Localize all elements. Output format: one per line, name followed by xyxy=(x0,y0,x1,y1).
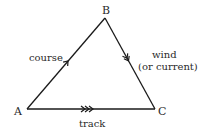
track-label: track xyxy=(79,118,106,129)
vertex-label-c: C xyxy=(158,105,166,118)
edge-course xyxy=(27,18,105,109)
vector-triangle-diagram: A B C course wind (or current) track xyxy=(0,0,202,132)
wind-arrow-icon xyxy=(122,53,131,62)
current-label: (or current) xyxy=(138,61,198,72)
vertex-label-b: B xyxy=(102,4,110,17)
course-label: course xyxy=(29,52,63,63)
wind-label: wind xyxy=(152,49,177,60)
vertex-label-a: A xyxy=(13,105,23,118)
